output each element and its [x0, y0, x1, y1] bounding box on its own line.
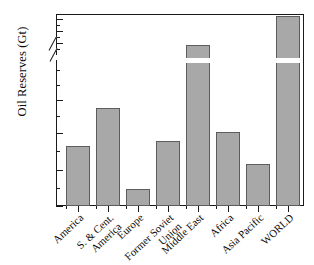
- bar-upper-segment: [276, 16, 300, 58]
- x-axis-tick: [138, 206, 139, 212]
- y-axis-tick-upper: [56, 31, 63, 32]
- y-axis-minor-tick: [56, 85, 60, 86]
- y-axis-tick-lower: [56, 206, 63, 207]
- bar: [66, 146, 90, 206]
- bar: [96, 108, 120, 206]
- x-axis-label-line: WORLD: [258, 211, 295, 247]
- x-axis-minor-tick: [66, 206, 67, 209]
- bar: [126, 189, 150, 206]
- y-axis-break-marker: [49, 50, 65, 63]
- x-axis-tick: [78, 206, 79, 212]
- y-axis-tick-lower: [56, 133, 63, 134]
- bar: [156, 141, 180, 206]
- x-axis-tick: [288, 206, 289, 212]
- x-axis-tick: [198, 206, 199, 212]
- y-axis-tick-lower: [56, 100, 63, 101]
- x-axis-minor-tick: [156, 206, 157, 209]
- x-axis-minor-tick: [276, 206, 277, 209]
- bar-break-gap: [275, 58, 301, 63]
- bar: [216, 132, 240, 206]
- y-axis-title: Oil Reserves (Gt): [15, 0, 30, 152]
- x-axis-minor-tick: [186, 206, 187, 209]
- x-axis-tick: [258, 206, 259, 212]
- y-axis-minor-tick: [56, 188, 60, 189]
- y-axis-minor-tick: [56, 151, 60, 152]
- bar-upper-segment: [186, 45, 210, 58]
- y-axis-minor-tick: [56, 116, 60, 117]
- x-axis-minor-tick: [216, 206, 217, 209]
- x-axis-tick: [228, 206, 229, 212]
- bar: [246, 164, 270, 206]
- x-axis-tick: [168, 206, 169, 212]
- bar-lower-segment: [186, 63, 210, 206]
- bar-break-gap: [185, 58, 211, 63]
- x-axis-tick: [108, 206, 109, 212]
- y-axis-tick-upper: [56, 19, 63, 20]
- y-axis-minor-tick: [56, 70, 60, 71]
- x-axis-minor-tick: [96, 206, 97, 209]
- bar-lower-segment: [276, 63, 300, 206]
- y-axis-tick-lower: [56, 170, 63, 171]
- x-axis-minor-tick: [126, 206, 127, 209]
- y-axis-tick-upper: [56, 43, 63, 44]
- y-axis-minor-tick: [56, 25, 60, 26]
- x-axis-minor-tick: [246, 206, 247, 209]
